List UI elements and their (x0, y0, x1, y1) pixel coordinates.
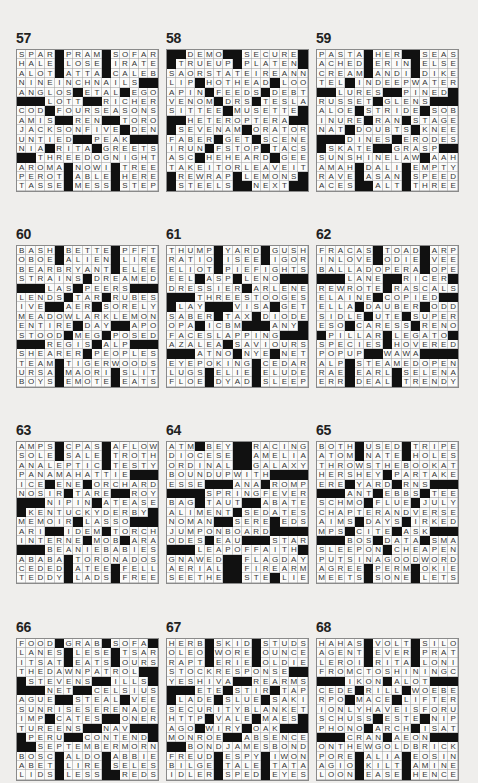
letter-cell: O (186, 451, 195, 460)
letter-cell: E (383, 78, 392, 87)
letter-cell: A (242, 340, 251, 349)
letter-cell: E (64, 349, 73, 358)
letter-cell: O (223, 349, 232, 358)
letter-cell: U (364, 442, 373, 451)
letter-cell: N (73, 667, 82, 676)
letter-cell: L (45, 97, 54, 106)
letter-cell: I (176, 451, 185, 460)
letter-cell: D (186, 50, 195, 59)
black-square (214, 312, 223, 321)
letter-cell: B (402, 489, 411, 498)
letter-cell: E (102, 172, 111, 181)
letter-cell: T (139, 451, 148, 460)
letter-cell: I (252, 331, 261, 340)
black-square (214, 97, 223, 106)
letter-cell: A (280, 69, 289, 78)
letter-cell: S (92, 714, 101, 723)
letter-cell: P (355, 545, 364, 554)
letter-cell: A (130, 480, 139, 489)
letter-cell: T (223, 705, 232, 714)
letter-cell: H (317, 639, 326, 648)
letter-cell: K (26, 508, 35, 517)
letter-cell: T (402, 714, 411, 723)
letter-cell: H (205, 78, 214, 87)
letter-cell: C (73, 78, 82, 87)
letter-cell: T (148, 246, 157, 255)
letter-cell: E (420, 508, 429, 517)
letter-cell: A (336, 508, 345, 517)
black-square (36, 340, 45, 349)
black-square (83, 724, 92, 733)
letter-cell: E (205, 125, 214, 134)
letter-cell: C (355, 321, 364, 330)
letter-cell: K (83, 508, 92, 517)
letter-cell: E (102, 246, 111, 255)
letter-cell: D (402, 106, 411, 115)
letter-cell: S (120, 106, 129, 115)
letter-cell: S (55, 125, 64, 134)
letter-cell: A (233, 246, 242, 255)
letter-cell: E (448, 181, 457, 190)
letter-cell: F (373, 498, 382, 507)
letter-cell: A (439, 50, 448, 59)
letter-cell: E (139, 695, 148, 704)
letter-cell: M (289, 677, 298, 686)
black-square (448, 733, 457, 742)
letter-cell: E (289, 293, 298, 302)
letter-cell: U (186, 144, 195, 153)
letter-cell: L (73, 312, 82, 321)
letter-cell: B (289, 88, 298, 97)
letter-cell: I (17, 480, 26, 489)
letter-cell: N (73, 163, 82, 172)
black-square (252, 321, 261, 330)
black-square (186, 545, 195, 554)
black-square (102, 442, 111, 451)
letter-cell: E (83, 181, 92, 190)
letter-cell: E (120, 498, 129, 507)
letter-cell: A (402, 246, 411, 255)
black-square (111, 564, 120, 573)
letter-cell: E (186, 573, 195, 582)
letter-cell: H (148, 451, 157, 460)
letter-cell: D (186, 461, 195, 470)
black-square (411, 50, 420, 59)
letter-cell: I (326, 312, 335, 321)
black-square (270, 153, 279, 162)
letter-cell: E (439, 78, 448, 87)
black-square (252, 658, 261, 667)
letter-cell: W (420, 555, 429, 564)
letter-cell: D (252, 770, 261, 779)
letter-cell: F (252, 265, 261, 274)
black-square (167, 293, 176, 302)
letter-cell: B (26, 555, 35, 564)
letter-cell: R (420, 442, 429, 451)
black-square (373, 293, 382, 302)
letter-cell: O (36, 639, 45, 648)
letter-cell: L (176, 302, 185, 311)
letter-cell: A (289, 536, 298, 545)
letter-cell: O (195, 648, 204, 657)
letter-cell: L (326, 359, 335, 368)
letter-cell: N (289, 284, 298, 293)
letter-cell: E (383, 489, 392, 498)
letter-cell: A (373, 451, 382, 460)
letter-cell: E (36, 733, 45, 742)
letter-cell: M (92, 50, 101, 59)
letter-cell: M (120, 742, 129, 751)
letter-cell: O (26, 451, 35, 460)
letter-cell: F (214, 88, 223, 97)
letter-cell: E (289, 302, 298, 311)
black-square (336, 489, 345, 498)
letter-cell: E (111, 274, 120, 283)
letter-cell: W (411, 153, 420, 162)
letter-cell: O (364, 677, 373, 686)
letter-cell: A (439, 153, 448, 162)
letter-cell: O (92, 752, 101, 761)
letter-cell: T (36, 677, 45, 686)
letter-cell: T (345, 50, 354, 59)
letter-cell: D (373, 78, 382, 87)
letter-cell: E (242, 69, 251, 78)
letter-cell: L (214, 564, 223, 573)
letter-cell: L (176, 265, 185, 274)
letter-cell: R (383, 59, 392, 68)
